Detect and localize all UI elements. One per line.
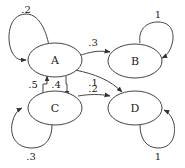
edge-label-a-a: .2 (21, 4, 31, 15)
node-label-b: B (131, 55, 139, 68)
node-b: B (108, 44, 162, 78)
node-label-d: D (131, 102, 140, 115)
node-d: D (108, 91, 162, 125)
edge-label-c-d: .2 (88, 83, 98, 94)
edge-label-c-a: .5 (28, 79, 38, 90)
node-label-c: C (51, 102, 59, 115)
node-c: C (28, 91, 82, 125)
edge-label-b-b: 1 (155, 9, 161, 20)
edge-label-a-c: .4 (51, 79, 61, 90)
node-a: A (28, 43, 82, 77)
markov-chain-diagram: .2 .3 1 .5 .4 .1 .2 .3 1 A (0, 0, 185, 168)
node-label-a: A (50, 54, 60, 67)
edge-c-a: .5 (28, 76, 47, 94)
edge-a-b: .3 (78, 37, 110, 56)
edge-label-c-c: .3 (26, 151, 36, 162)
edge-label-a-b: .3 (88, 37, 98, 48)
edge-a-d: .1 (75, 70, 122, 92)
edge-label-d-d: 1 (155, 151, 161, 162)
edge-c-d: .2 (78, 83, 110, 96)
